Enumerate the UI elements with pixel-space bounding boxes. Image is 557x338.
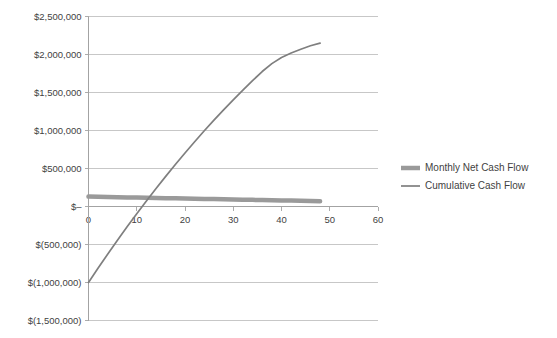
chart-canvas: $(1,500,000)$(1,000,000)$(500,000)$–$500…	[0, 0, 557, 338]
x-tick-label: 40	[276, 214, 287, 225]
legend-label: Cumulative Cash Flow	[425, 180, 526, 191]
y-tick-label: $(1,000,000)	[28, 277, 82, 288]
x-tick-label: 60	[373, 214, 384, 225]
y-tick-label: $1,500,000	[34, 87, 82, 98]
y-tick-label: $500,000	[42, 163, 82, 174]
y-tick-label: $–	[71, 201, 82, 212]
x-tick-label: 50	[324, 214, 335, 225]
y-tick-label: $2,500,000	[34, 11, 82, 22]
y-tick-label: $(1,500,000)	[28, 315, 82, 326]
y-tick-label: $(500,000)	[36, 239, 82, 250]
legend-label: Monthly Net Cash Flow	[425, 162, 529, 173]
y-tick-label: $1,000,000	[34, 125, 82, 136]
cash-flow-chart: $(1,500,000)$(1,000,000)$(500,000)$–$500…	[0, 0, 557, 338]
x-tick-label: 20	[180, 214, 191, 225]
y-tick-label: $2,000,000	[34, 49, 82, 60]
x-tick-label: 30	[228, 214, 239, 225]
